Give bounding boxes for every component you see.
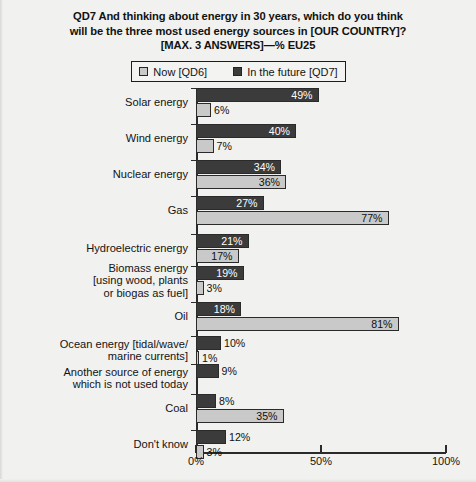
bar-value-label: 34% <box>254 161 280 173</box>
bar-value-label: 40% <box>269 125 295 137</box>
category-label: Wind energy <box>0 132 188 145</box>
category-label: Gas <box>0 204 188 217</box>
bar-future[interactable]: 10% <box>196 336 221 350</box>
legend-label-now: Now [QD6] <box>153 66 207 78</box>
bar-now[interactable]: 6% <box>196 103 211 117</box>
bar-now[interactable]: 3% <box>196 281 204 295</box>
category-label: Solar energy <box>0 96 188 109</box>
bar-now[interactable]: 17% <box>196 249 239 263</box>
category-label: Ocean energy [tidal/wave/ marine current… <box>0 338 188 363</box>
x-tick-label: 0% <box>188 455 204 467</box>
chart-title-line-1: QD7 And thinking about energy in 30 year… <box>0 9 476 24</box>
bar-value-label: 21% <box>221 235 247 247</box>
bar-value-label: 7% <box>213 140 232 152</box>
x-tick-mark <box>195 445 197 453</box>
chart-legend: Now [QD6] In the future [QD7] <box>131 61 346 82</box>
bar-value-label: 81% <box>371 318 397 330</box>
bar-value-label: 18% <box>214 303 240 315</box>
bar-now[interactable]: 77% <box>196 211 389 225</box>
bar-future[interactable]: 40% <box>196 124 296 138</box>
category-label: Oil <box>0 310 188 323</box>
bar-value-label: 10% <box>220 337 245 349</box>
bar-future[interactable]: 18% <box>196 302 241 316</box>
bar-value-label: 3% <box>203 446 222 458</box>
bar-value-label: 36% <box>259 176 285 188</box>
bar-future[interactable]: 21% <box>196 234 249 248</box>
bar-value-label: 12% <box>225 431 250 443</box>
category-label: Biomass energy [using wood, plants or bi… <box>0 262 188 300</box>
category-label: Hydroelectric energy <box>0 242 188 255</box>
chart-title: QD7 And thinking about energy in 30 year… <box>0 9 476 53</box>
bar-value-label: 17% <box>211 250 237 262</box>
legend-swatch-future <box>233 67 242 76</box>
bar-value-label: 3% <box>203 282 222 294</box>
chart-title-line-3: [MAX. 3 ANSWERS]—% EU25 <box>0 38 476 53</box>
bar-now[interactable]: 81% <box>196 317 399 331</box>
bar-value-label: 77% <box>361 212 387 224</box>
x-tick-mark <box>445 445 447 453</box>
bar-future[interactable]: 27% <box>196 196 264 210</box>
x-tick-mark <box>320 445 322 453</box>
bar-now[interactable]: 35% <box>196 409 284 423</box>
category-label: Nuclear energy <box>0 168 188 181</box>
bar-future[interactable]: 49% <box>196 88 319 102</box>
legend-item-future[interactable]: In the future [QD7] <box>233 66 338 78</box>
bar-value-label: 6% <box>210 104 229 116</box>
bar-future[interactable]: 8% <box>196 394 216 408</box>
plot-area: Solar energy49%6%Wind energy40%7%Nuclear… <box>196 88 446 452</box>
bar-now[interactable]: 36% <box>196 175 286 189</box>
bar-value-label: 35% <box>256 410 282 422</box>
bar-value-label: 8% <box>215 395 234 407</box>
bar-now[interactable]: 1% <box>196 351 199 365</box>
bar-value-label: 19% <box>216 267 242 279</box>
legend-label-future: In the future [QD7] <box>247 66 338 78</box>
bar-value-label: 49% <box>291 89 317 101</box>
x-tick-label: 100% <box>432 455 460 467</box>
bar-value-label: 1% <box>198 352 217 364</box>
category-label: Coal <box>0 402 188 415</box>
bar-chart: QD7 And thinking about energy in 30 year… <box>0 0 476 482</box>
legend-item-now[interactable]: Now [QD6] <box>139 66 207 78</box>
category-label: Another source of energy which is not us… <box>0 366 188 391</box>
bar-future[interactable]: 12% <box>196 430 226 444</box>
category-label: Don't know <box>0 438 188 451</box>
bar-future[interactable]: 34% <box>196 160 281 174</box>
x-tick-label: 50% <box>310 455 332 467</box>
bar-now[interactable]: 7% <box>196 139 214 153</box>
bar-value-label: 9% <box>218 365 237 377</box>
chart-title-line-2: will be the three most used energy sourc… <box>0 24 476 39</box>
bar-future[interactable]: 9% <box>196 364 219 378</box>
legend-swatch-now <box>139 67 148 76</box>
bar-value-label: 27% <box>236 197 262 209</box>
bar-future[interactable]: 19% <box>196 266 244 280</box>
